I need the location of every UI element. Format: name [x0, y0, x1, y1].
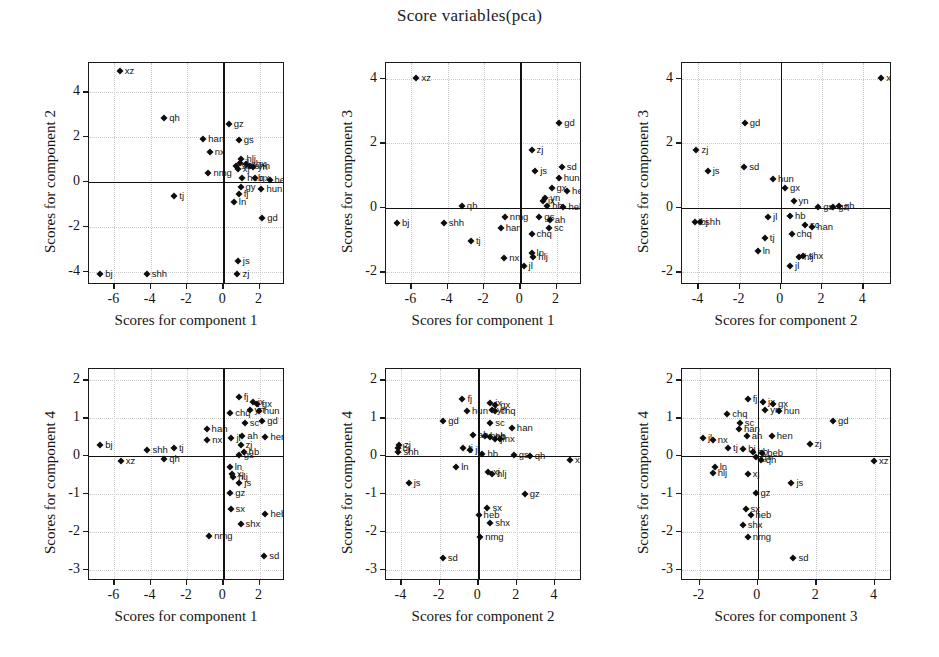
- x-tick-label: -6: [108, 291, 120, 307]
- data-point: [762, 406, 769, 413]
- point-label: fj: [244, 189, 249, 199]
- point-label: hen: [275, 175, 284, 185]
- point-label: gx: [790, 184, 800, 194]
- data-point: [170, 444, 177, 451]
- scatter-panel-5: fjjxgxynchqhungdschanhebhbjlnxahzjbjshht…: [0, 0, 939, 657]
- gridline-horizontal: [89, 272, 283, 273]
- point-label: xj: [237, 469, 244, 479]
- point-label: sx: [492, 504, 502, 514]
- gridline-horizontal: [682, 418, 890, 419]
- y-tick-label: 4: [641, 70, 673, 86]
- data-point: [249, 399, 256, 406]
- point-label: chq: [797, 229, 812, 239]
- data-point: [775, 408, 782, 415]
- data-point: [246, 162, 253, 169]
- x-tick-label: -2: [693, 587, 705, 603]
- point-label: tj: [179, 191, 184, 201]
- data-point: [439, 554, 446, 561]
- point-label: gs: [519, 451, 529, 461]
- gridline-vertical: [151, 63, 152, 283]
- data-point: [237, 442, 244, 449]
- point-label: jl: [795, 262, 799, 272]
- point-label: gd: [267, 416, 278, 426]
- point-label: gs: [544, 212, 554, 222]
- point-label: nmg: [214, 532, 232, 542]
- data-point: [788, 231, 795, 238]
- data-point: [487, 400, 494, 407]
- x-tick: [699, 580, 700, 585]
- data-point: [484, 505, 491, 512]
- data-point: [492, 435, 499, 442]
- point-label: hlj: [718, 468, 728, 478]
- data-point: [144, 447, 151, 454]
- data-point: [760, 399, 767, 406]
- data-point: [742, 506, 749, 513]
- data-point: [768, 433, 775, 440]
- y-tick-label: 0: [641, 199, 673, 215]
- point-label: js: [540, 166, 547, 176]
- y-tick-label: 0: [641, 447, 673, 463]
- point-label: gd: [838, 416, 849, 426]
- data-point: [489, 406, 496, 413]
- point-label: jx: [548, 196, 555, 206]
- data-point: [262, 434, 269, 441]
- data-point: [161, 114, 168, 121]
- point-label: hun: [264, 406, 280, 416]
- x-tick-label: 2: [512, 587, 519, 603]
- x-tick-label: 2: [255, 587, 262, 603]
- data-point: [735, 425, 742, 432]
- point-label: qh: [467, 201, 478, 211]
- zero-line-vertical: [223, 369, 224, 579]
- x-tick-label: -6: [405, 291, 417, 307]
- x-tick-label: -2: [733, 291, 745, 307]
- gridline-vertical: [875, 369, 876, 579]
- gridline-vertical: [440, 369, 441, 579]
- gridline-vertical: [114, 369, 115, 579]
- data-point: [510, 452, 517, 459]
- point-label: tj: [179, 443, 184, 453]
- point-label: jl: [529, 262, 533, 272]
- data-point: [205, 170, 212, 177]
- point-label: sx: [751, 504, 761, 514]
- y-axis-title: Scores for component 3: [635, 110, 652, 253]
- point-label: sc: [495, 418, 505, 428]
- point-label: qh: [169, 113, 180, 123]
- y-tick: [83, 417, 88, 418]
- data-point: [747, 511, 754, 518]
- point-label: bj: [700, 218, 707, 228]
- gridline-horizontal: [386, 380, 580, 381]
- point-label: hb: [487, 449, 498, 459]
- point-label: jx: [258, 398, 265, 408]
- gridline-vertical: [816, 369, 817, 579]
- point-label: gz: [235, 488, 245, 498]
- y-tick-label: 1: [641, 409, 673, 425]
- data-point: [467, 237, 474, 244]
- y-tick: [676, 271, 681, 272]
- gridline-horizontal: [682, 143, 890, 144]
- point-label: nx: [212, 435, 222, 445]
- data-point: [481, 433, 488, 440]
- point-label: gd: [448, 416, 459, 426]
- data-point: [711, 463, 718, 470]
- gridline-horizontal: [682, 494, 890, 495]
- point-label: tj: [733, 443, 738, 453]
- x-tick-label: 2: [818, 291, 825, 307]
- y-tick: [676, 417, 681, 418]
- point-label: qh: [766, 455, 777, 465]
- y-tick: [83, 181, 88, 182]
- point-label: sd: [567, 162, 577, 172]
- y-tick-label: 2: [641, 371, 673, 387]
- gridline-horizontal: [386, 418, 580, 419]
- zero-line-horizontal: [386, 456, 580, 457]
- point-label: fj: [244, 393, 249, 403]
- x-tick: [757, 580, 758, 585]
- point-label: chq: [732, 409, 747, 419]
- point-label: jl: [773, 212, 777, 222]
- y-tick-label: -1: [48, 485, 80, 501]
- x-tick-label: 2: [255, 291, 262, 307]
- gridline-horizontal: [89, 456, 283, 457]
- y-tick: [83, 271, 88, 272]
- data-point: [542, 195, 549, 202]
- data-point: [800, 252, 807, 259]
- y-tick: [380, 78, 385, 79]
